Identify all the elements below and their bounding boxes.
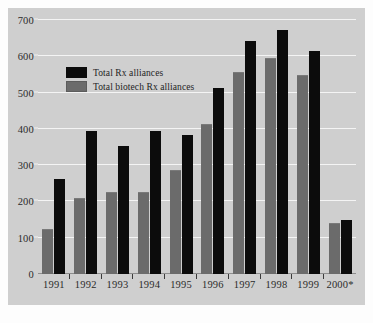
y-axis-tick-label: 300	[18, 160, 34, 171]
bar-biotech	[265, 58, 276, 274]
x-axis-tick-label: 1992	[70, 279, 102, 290]
y-axis-tick-label: 200	[18, 196, 34, 207]
bar-biotech	[74, 198, 85, 274]
bar-total	[341, 220, 352, 274]
bar-group: 1992	[70, 20, 102, 274]
x-axis-tick-label: 1996	[197, 279, 229, 290]
legend-label: Total Rx alliances	[93, 68, 163, 78]
figure: 0100200300400500600700 19911992199319941…	[0, 0, 373, 323]
bar-total	[182, 135, 193, 274]
bar-biotech	[138, 192, 149, 274]
x-axis-tick-label: 1998	[261, 279, 293, 290]
bar-group: 2000*	[324, 20, 356, 274]
bar-total	[277, 30, 288, 274]
bar-biotech	[42, 229, 53, 274]
bar-biotech	[201, 124, 212, 274]
y-axis-tick-label: 700	[18, 15, 34, 26]
legend-swatch-total-rx-alliances	[66, 67, 87, 78]
x-axis-tick-label: 2000*	[324, 279, 356, 290]
bar-group: 1999	[292, 20, 324, 274]
bar-biotech	[170, 170, 181, 274]
chart-panel: 0100200300400500600700 19911992199319941…	[8, 8, 365, 305]
bar-total	[86, 131, 97, 274]
bar-group: 1994	[133, 20, 165, 274]
bar-total	[309, 51, 320, 274]
bar-group: 1991	[38, 20, 70, 274]
bar-total	[118, 146, 129, 274]
bar-biotech	[329, 223, 340, 274]
legend-item: Total Rx alliances	[66, 67, 194, 78]
x-axis-tick-label: 1994	[133, 279, 165, 290]
legend-label: Total biotech Rx alliances	[93, 82, 194, 92]
x-axis-tick-label: 1995	[165, 279, 197, 290]
y-axis-tick-label: 500	[18, 87, 34, 98]
bar-group: 1996	[197, 20, 229, 274]
chart-legend: Total Rx alliances Total biotech Rx alli…	[66, 67, 194, 95]
plot-area: 0100200300400500600700 19911992199319941…	[38, 20, 356, 274]
bar-biotech	[233, 72, 244, 274]
y-axis-tick-label: 100	[18, 232, 34, 243]
y-axis-tick-label: 400	[18, 123, 34, 134]
bar-total	[213, 88, 224, 274]
bar-groups: 1991199219931994199519961997199819992000…	[38, 20, 356, 274]
x-axis-tick-label: 1993	[102, 279, 134, 290]
bar-total	[150, 131, 161, 274]
bar-group: 1998	[261, 20, 293, 274]
bar-biotech	[106, 192, 117, 274]
y-axis-tick-label: 600	[18, 51, 34, 62]
bar-biotech	[297, 75, 308, 274]
legend-item: Total biotech Rx alliances	[66, 81, 194, 92]
bar-total	[54, 179, 65, 274]
y-axis-tick-label: 0	[29, 269, 34, 280]
legend-swatch-total-biotech-rx-alliances	[66, 81, 87, 92]
bar-group: 1995	[165, 20, 197, 274]
bar-total	[245, 41, 256, 274]
x-axis-tick-label: 1991	[38, 279, 70, 290]
x-axis-tick-label: 1997	[229, 279, 261, 290]
x-axis-tick-label: 1999	[292, 279, 324, 290]
bar-group: 1997	[229, 20, 261, 274]
bar-group: 1993	[102, 20, 134, 274]
